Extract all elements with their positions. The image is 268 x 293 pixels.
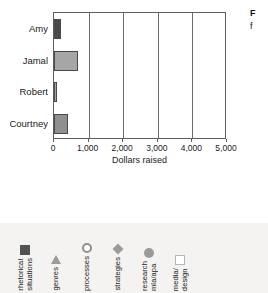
x-tick-mark (226, 139, 227, 142)
x-tick-label: 4,000 (181, 143, 202, 153)
legend: rhetorical situationsgenresprocessesstra… (0, 223, 268, 293)
square-filled-icon (20, 245, 30, 255)
legend-label: strategies (114, 257, 123, 291)
legend-item[interactable]: strategies (105, 244, 131, 291)
x-tick-mark (191, 139, 192, 142)
bar-chart-figure: AmyJamalRobertCourtney 01,0002,0003,0004… (0, 0, 268, 180)
x-axis-ticks: 01,0002,0003,0004,0005,000 (53, 139, 226, 155)
y-axis-label-courtney: Courtney (0, 118, 48, 129)
legend-item[interactable]: media/ design (167, 255, 193, 291)
legend-label: processes (83, 256, 92, 291)
y-axis-category-labels: AmyJamalRobertCourtney (53, 12, 226, 139)
x-axis-title: Dollars raised (53, 155, 226, 166)
y-axis-label-amy: Amy (0, 22, 48, 33)
x-tick-label: 3,000 (146, 143, 167, 153)
diamond-icon (112, 244, 123, 255)
legend-label: media/ design (172, 268, 189, 291)
x-tick-label: 2,000 (112, 143, 133, 153)
y-axis-label-robert: Robert (0, 86, 48, 97)
caption-line-1: F (250, 7, 268, 20)
caption-text-fragment: F f (250, 7, 268, 33)
legend-item[interactable]: research mla/apa (136, 248, 162, 291)
legend-item[interactable]: rhetorical situations (12, 245, 38, 291)
legend-label: rhetorical situations (17, 258, 34, 291)
legend-label: genres (52, 267, 61, 291)
square-open-icon (175, 255, 185, 265)
x-tick-label: 1,000 (77, 143, 98, 153)
x-tick-mark (88, 139, 89, 142)
x-tick-mark (53, 139, 54, 142)
triangle-icon (51, 255, 61, 264)
circle-open-icon (82, 243, 92, 253)
legend-item[interactable]: processes (74, 243, 100, 291)
y-axis-label-jamal: Jamal (0, 54, 48, 65)
circle-filled-icon (144, 248, 154, 258)
x-tick-mark (122, 139, 123, 142)
x-tick-label: 5,000 (215, 143, 236, 153)
x-tick-label: 0 (51, 143, 56, 153)
caption-line-2: f (250, 20, 268, 33)
x-tick-mark (157, 139, 158, 142)
legend-item[interactable]: genres (43, 255, 69, 291)
legend-label: research mla/apa (141, 261, 158, 291)
